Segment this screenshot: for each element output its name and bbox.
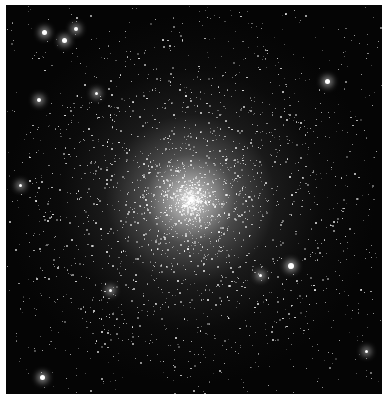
bright-star bbox=[365, 350, 368, 353]
star-cluster-photo bbox=[6, 5, 382, 394]
bright-star bbox=[19, 184, 22, 187]
star-field bbox=[6, 5, 382, 394]
image-subject: Globular star cluster bbox=[0, 0, 1, 1]
bright-star bbox=[40, 375, 45, 380]
bright-star bbox=[74, 27, 78, 31]
bright-star bbox=[42, 30, 47, 35]
bright-star bbox=[62, 38, 67, 43]
bright-star bbox=[288, 263, 294, 269]
bright-star bbox=[37, 98, 41, 102]
bright-star bbox=[109, 289, 112, 292]
bright-star bbox=[259, 274, 262, 277]
bright-star bbox=[325, 79, 330, 84]
bright-star bbox=[95, 92, 98, 95]
